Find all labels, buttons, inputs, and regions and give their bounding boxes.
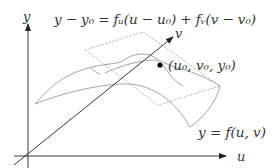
point-marker (157, 62, 162, 67)
surface-label: y = f(u, v) (198, 126, 266, 140)
v-axis-label: v (175, 27, 182, 40)
y-axis-label: y (23, 10, 30, 23)
u-axis-label: u (237, 150, 245, 163)
tangent-plane-equation: y − y₀ = fᵤ(u − u₀) + fᵥ(v − v₀) (54, 13, 256, 27)
point-label: (u₀, v₀, y₀) (168, 59, 236, 73)
